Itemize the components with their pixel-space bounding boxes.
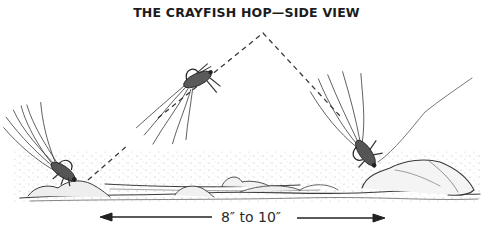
right-arrow-icon: [297, 214, 385, 222]
illustration: [0, 0, 493, 243]
stream-bottom: [20, 78, 480, 201]
crayfish-hop-diagram: THE CRAYFISH HOP—SIDE VIEW: [0, 0, 493, 243]
fly-midhop-icon: [124, 61, 235, 157]
distance-label: 8″ to 10″: [196, 209, 306, 225]
